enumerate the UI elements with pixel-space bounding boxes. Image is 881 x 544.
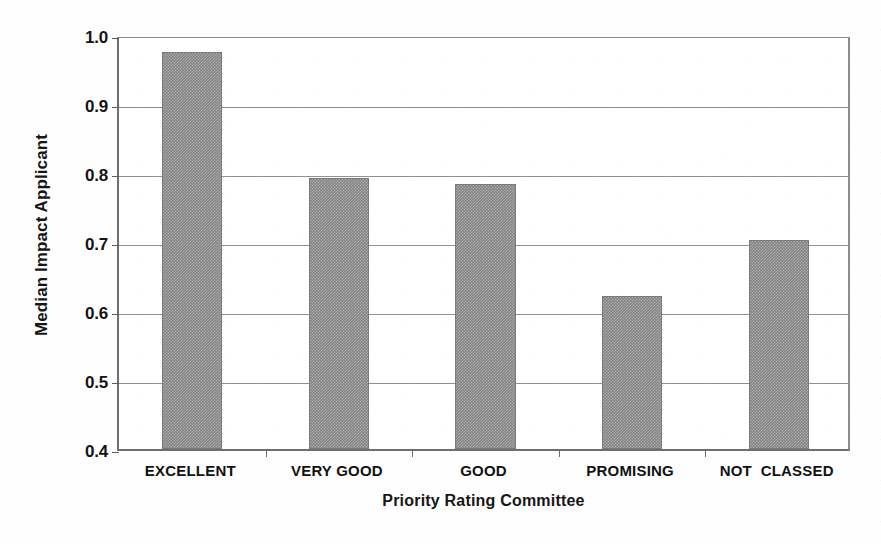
bar [602, 296, 662, 449]
gridline [119, 107, 848, 108]
x-axis-tick-mark [266, 449, 267, 457]
y-axis-tick-label: 0.9 [85, 97, 108, 117]
y-axis-tick-mark [112, 383, 119, 384]
y-axis-tick-label: 0.6 [85, 304, 108, 324]
gridline [119, 176, 848, 177]
y-axis-tick-label: 0.5 [85, 373, 108, 393]
x-axis-category-label: NOT CLASSED [720, 462, 834, 479]
x-axis-tick-mark [705, 449, 706, 457]
y-axis-tick-label: 0.7 [85, 235, 108, 255]
x-axis-title: Priority Rating Committee [117, 492, 850, 510]
y-axis-tick-mark [112, 38, 119, 39]
bar [162, 52, 222, 449]
x-axis-tick-mark [412, 449, 413, 457]
x-axis-category-label: VERY GOOD [291, 462, 383, 479]
y-axis-tick-label: 1.0 [85, 28, 108, 48]
x-axis-category-label: GOOD [460, 462, 507, 479]
y-axis-tick-mark [112, 176, 119, 177]
x-axis-tick-mark [559, 449, 560, 457]
y-axis-tick-mark [112, 245, 119, 246]
y-axis-tick-mark [112, 314, 119, 315]
y-axis-tick-label: 0.8 [85, 166, 108, 186]
y-axis-tick-mark [112, 107, 119, 108]
x-axis-category-label: PROMISING [586, 462, 674, 479]
x-axis-category-label: EXCELLENT [145, 462, 236, 479]
y-axis-tick-label: 0.4 [85, 442, 108, 462]
y-axis-tick-mark [112, 452, 119, 453]
bar [455, 184, 515, 449]
bar-chart-figure: Median Impact Applicant 1.00.90.80.70.60… [0, 0, 881, 544]
bar [309, 178, 369, 449]
plot-area: 1.00.90.80.70.60.50.4 [117, 37, 850, 451]
y-axis-title: Median Impact Applicant [32, 25, 52, 445]
bar [749, 240, 809, 449]
